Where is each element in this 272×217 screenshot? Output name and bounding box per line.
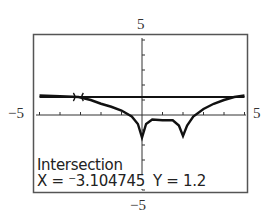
xmax-label: 5	[253, 106, 261, 121]
xmin-label: −5	[8, 106, 24, 121]
ymin-label: −5	[130, 198, 146, 213]
readout-title: Intersection	[37, 158, 123, 173]
ymax-label: 5	[137, 17, 145, 32]
readout-y-value: Y = 1.2	[153, 174, 206, 189]
readout-x-value: X = ⁻3.104745	[37, 174, 147, 189]
